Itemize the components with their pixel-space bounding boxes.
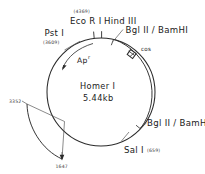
plasmid-size-label: 5.44kb [83,93,114,103]
sal-i-position: (659) [147,148,160,153]
insert-arc-end-label: 1647 [56,164,69,169]
svg-text:Ap: Ap [77,56,87,65]
eco-ri-position: (4369) [74,9,90,14]
excised-fragment-chord [27,104,65,159]
cos-label: cos [141,46,151,52]
plasmid-map-figure: (4369) Eco R I Hind III Bgl II / BamHI c… [0,0,205,174]
tick-bgl-bam-top [113,30,123,42]
apr-gene-label: Ap r [77,54,91,65]
svg-text:r: r [88,54,91,60]
cos-box [127,50,136,59]
pst-i-label: Pst I [45,28,65,38]
outer-arc-cap-top [111,40,113,45]
bgl-bamhi-top-label: Bgl II / BamHI [126,25,189,35]
pst-i-position: (3609) [43,40,59,45]
eco-ri-label: Eco R I [70,16,101,26]
insert-arc-start-label: 3352 [9,99,22,104]
outer-insert-arc [114,39,152,128]
excised-end-arrowhead [60,155,65,161]
sal-i-label: Sal I [124,145,144,155]
bgl-bamhi-bottom-label: Bgl II / BamHI [147,118,205,128]
outer-arc-cap-bottom [136,125,140,129]
leader-pst-i [65,41,81,50]
plasmid-name-label: Homer I [80,81,115,91]
leader-sal-i [122,132,130,141]
plasmid-backbone-circle [47,38,155,146]
excised-start-tick [22,101,27,104]
tick-eco-ri [94,32,95,39]
apr-arrowhead [62,65,67,71]
